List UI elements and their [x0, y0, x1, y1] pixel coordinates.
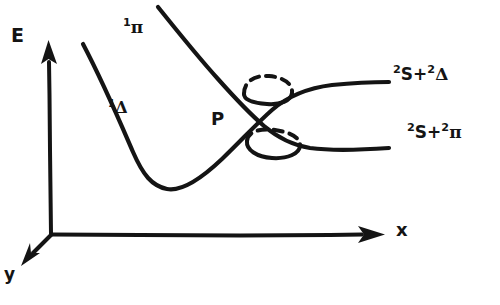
upper-asymptote-label: 2S+2Δ: [393, 64, 448, 83]
delta-curve-path: [83, 44, 389, 189]
lower-asymptote-operator: +: [427, 122, 441, 142]
x-axis-label: x: [396, 221, 408, 239]
energy-axis-label: E: [11, 26, 24, 45]
crossing-point-label: P: [211, 110, 224, 128]
sketch-canvas: [0, 0, 500, 305]
lower-asymptote-label: 2S+2π: [407, 122, 462, 141]
lower-asymptote-term2: π: [449, 122, 461, 142]
upper-ring-dashed-arc: [244, 76, 292, 94]
pi-state-symbol: π: [131, 17, 143, 37]
y-axis-line: [33, 235, 51, 253]
lower-asymptote-sup2: 2: [441, 121, 449, 134]
potential-energy-curve-figure: E x y 1π 1Δ P 2S+2Δ 2S+2π: [0, 0, 500, 305]
x-axis-line: [52, 235, 362, 236]
delta-state-curve: [83, 44, 389, 189]
upper-asymptote-term1: S: [401, 64, 413, 84]
upper-asymptote-term2: Δ: [435, 64, 448, 84]
delta-state-label: 1Δ: [108, 98, 128, 116]
pi-state-multiplicity: 1: [123, 16, 131, 29]
delta-state-symbol: Δ: [115, 98, 127, 117]
upper-asymptote-sup1: 2: [393, 63, 401, 76]
upper-avoided-crossing-ring: [244, 76, 292, 104]
axis-group: [21, 40, 385, 266]
upper-asymptote-sup2: 2: [427, 63, 435, 76]
lower-asymptote-term1: S: [415, 122, 427, 142]
energy-axis-line: [49, 62, 51, 234]
pi-state-label: 1π: [123, 17, 143, 36]
lower-asymptote-sup1: 2: [407, 121, 415, 134]
y-axis-label: y: [4, 266, 15, 283]
upper-asymptote-operator: +: [413, 64, 427, 84]
